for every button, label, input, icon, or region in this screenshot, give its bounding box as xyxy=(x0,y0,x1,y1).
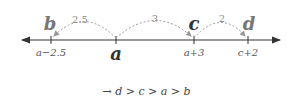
tick-label-b: a−2.5 xyxy=(36,47,66,58)
jump-label-2: 2 xyxy=(219,13,225,24)
conclusion-text: d > c > a > b xyxy=(115,85,190,98)
jump-label-2-5: 2.5 xyxy=(72,14,88,25)
number-line-diagram: 2.5 3 2 b c d a a−2.5 a+3 c+2 xyxy=(0,0,293,80)
point-label-a: a xyxy=(110,43,122,64)
implies-arrow-icon: → xyxy=(102,85,111,98)
jump-arc-c-to-d xyxy=(194,22,245,38)
conclusion-line: → d > c > a > b xyxy=(0,85,293,98)
tick-label-c: a+3 xyxy=(184,47,205,58)
point-label-d: d xyxy=(243,13,256,34)
point-label-c: c xyxy=(189,13,200,34)
point-label-b: b xyxy=(44,13,57,34)
tick-label-d: c+2 xyxy=(238,47,258,58)
jump-label-3: 3 xyxy=(152,13,158,24)
